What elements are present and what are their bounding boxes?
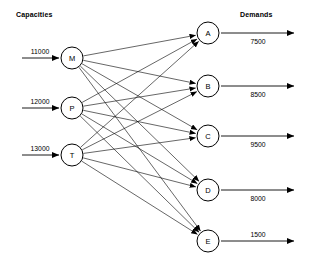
source-node-t[interactable]: T	[61, 144, 83, 166]
source-node-label-m: M	[69, 54, 75, 63]
demand-label-d: 8000	[250, 195, 265, 202]
edge-m-a	[83, 35, 195, 56]
destination-node-label-d: D	[205, 186, 211, 195]
demands-heading: Demands	[240, 11, 273, 18]
edge-t-a	[81, 41, 199, 147]
edge-p-a	[82, 39, 197, 102]
destination-nodes-group: ABCDE	[197, 22, 219, 252]
network-diagram-canvas: Capacities Demands 110001200013000 75008…	[0, 0, 310, 265]
demand-label-c: 9500	[250, 141, 265, 148]
destination-node-a[interactable]: A	[197, 22, 219, 44]
capacities-heading: Capacities	[16, 11, 53, 19]
destination-node-c[interactable]: C	[197, 125, 219, 147]
capacity-label-t: 13000	[31, 145, 50, 152]
inflow-arrows-group: 110001200013000	[22, 48, 59, 155]
edge-p-b	[83, 88, 195, 106]
source-nodes-group: MPT	[61, 47, 83, 166]
source-node-m[interactable]: M	[61, 47, 83, 69]
destination-node-d[interactable]: D	[197, 179, 219, 201]
source-node-label-t: T	[70, 151, 75, 160]
headings-group: Capacities Demands	[16, 11, 273, 19]
destination-node-label-b: B	[205, 82, 210, 91]
edge-m-b	[83, 60, 195, 83]
destination-node-e[interactable]: E	[197, 230, 219, 252]
demand-label-a: 7500	[250, 38, 265, 45]
edges-group	[79, 35, 201, 234]
demand-label-b: 8500	[250, 91, 265, 98]
destination-node-label-a: A	[205, 29, 210, 38]
destination-node-b[interactable]: B	[197, 75, 219, 97]
outflow-arrows-group: 75008500950080001500	[221, 33, 294, 241]
edge-t-b	[82, 92, 197, 150]
capacity-label-p: 12000	[31, 98, 50, 105]
source-node-label-p: P	[69, 104, 74, 113]
destination-node-label-c: C	[205, 132, 211, 141]
source-node-p[interactable]: P	[61, 97, 83, 119]
edge-m-c	[82, 64, 197, 130]
destination-node-label-e: E	[205, 237, 210, 246]
edge-t-c	[83, 138, 195, 154]
capacity-label-m: 11000	[31, 48, 50, 55]
network-diagram-svg: Capacities Demands 110001200013000 75008…	[0, 0, 310, 265]
edge-p-d	[82, 114, 197, 184]
demand-label-e: 1500	[250, 231, 265, 238]
